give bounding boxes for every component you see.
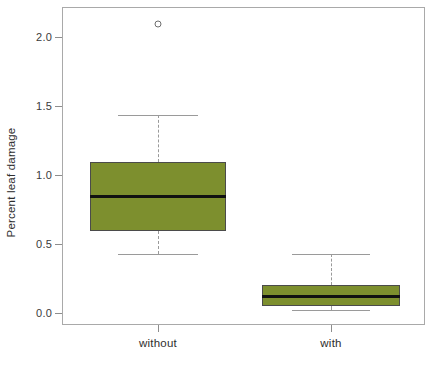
whisker-upper (331, 254, 332, 286)
whisker-cap-upper (292, 254, 370, 255)
boxplot-figure: Percent leaf damage 0.00.51.01.52.0 with… (0, 0, 440, 365)
whisker-cap-lower (292, 310, 370, 311)
median-line-with (262, 295, 400, 298)
box-group-with (0, 0, 440, 365)
